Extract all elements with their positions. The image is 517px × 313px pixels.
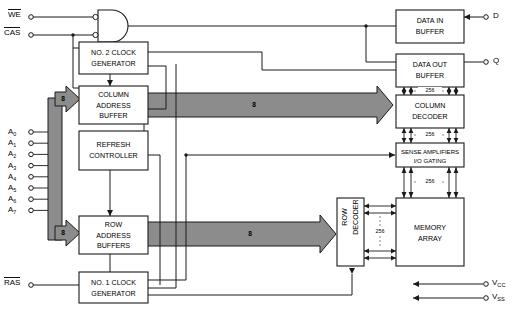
pin-address-2 xyxy=(29,152,34,157)
address-bus-spine xyxy=(48,98,62,240)
pin-address-3 xyxy=(29,163,34,168)
pin-address-0 xyxy=(29,130,34,135)
pin-address-1 xyxy=(29,141,34,146)
block-sense-amplifiers[interactable] xyxy=(396,143,464,167)
pin-ras xyxy=(29,283,34,288)
data-pin-arrowheads xyxy=(464,14,470,20)
pin-vcc xyxy=(484,282,489,287)
block-row-address-buffers[interactable] xyxy=(79,216,148,254)
block-column-decoder[interactable] xyxy=(396,95,464,128)
column-address-bus xyxy=(139,86,393,124)
address-pin-wires xyxy=(29,130,48,213)
row-address-bus xyxy=(139,215,336,253)
block-memory-array[interactable] xyxy=(396,198,464,266)
pin-address-6 xyxy=(29,197,34,202)
diagram-canvas xyxy=(0,0,517,313)
pin-address-7 xyxy=(29,208,34,213)
pin-address-4 xyxy=(29,175,34,180)
block-clock-generator-1[interactable] xyxy=(79,272,148,303)
data-pin-wires xyxy=(464,17,483,62)
pin-d xyxy=(484,15,489,20)
and-gate xyxy=(93,10,128,42)
pin-cas xyxy=(29,33,34,38)
pin-vss xyxy=(484,296,489,301)
block-clock-generator-2[interactable] xyxy=(79,42,148,74)
pin-address-5 xyxy=(29,186,34,191)
block-row-decoder[interactable] xyxy=(337,198,364,266)
block-column-address-buffer[interactable] xyxy=(79,86,148,124)
block-refresh-controller[interactable] xyxy=(79,131,148,170)
block-data-in-buffer[interactable] xyxy=(396,10,464,43)
pin-we xyxy=(29,15,34,20)
block-data-out-buffer[interactable] xyxy=(396,54,464,87)
dram-block-diagram: WE CAS RAS A0A1A2A3A4A5A6A7 D Q VCC VSS … xyxy=(0,0,517,313)
pin-q xyxy=(484,60,489,65)
